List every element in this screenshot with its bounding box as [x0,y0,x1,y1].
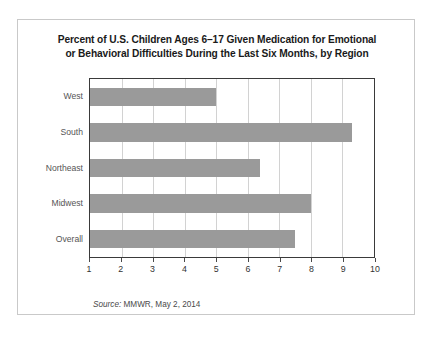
y-axis-label-overall: Overall [56,235,83,244]
x-tick-label-10: 10 [370,264,380,274]
y-axis-label-northeast: Northeast [46,164,83,173]
y-axis-label-midwest: Midwest [51,199,83,208]
figure-frame: Percent of U.S. Children Ages 6–17 Given… [17,19,415,315]
plot-area: WestSouthNortheastMidwestOverall [89,78,375,258]
source-note: Source: MMWR, May 2, 2014 [93,300,200,309]
bar-row: South [90,123,374,142]
chart-title-line-2: or Behavioral Difficulties During the La… [38,47,396,61]
bar-series: WestSouthNortheastMidwestOverall [90,79,374,257]
x-tick-label-4: 4 [182,264,187,274]
y-axis-label-west: West [64,92,83,101]
bar-row: West [90,88,374,107]
x-tick-mark [216,258,217,262]
source-value: MMWR, May 2, 2014 [124,300,201,309]
x-tick-mark [375,258,376,262]
x-tick-mark [343,258,344,262]
bar-west [90,88,216,107]
x-tick-mark [89,258,90,262]
x-tick-mark [153,258,154,262]
chart-title-line-1: Percent of U.S. Children Ages 6–17 Given… [38,33,396,47]
bar-row: Northeast [90,159,374,178]
x-tick-mark [311,258,312,262]
x-tick-label-3: 3 [150,264,155,274]
x-tick-mark [184,258,185,262]
x-tick-label-9: 9 [341,264,346,274]
x-tick-label-2: 2 [118,264,123,274]
source-label: Source: [93,300,121,309]
x-tick-mark [121,258,122,262]
x-axis: 12345678910 [89,258,375,280]
x-tick-label-1: 1 [87,264,92,274]
bar-south [90,123,352,142]
x-tick-label-5: 5 [214,264,219,274]
bar-row: Midwest [90,194,374,213]
bar-row: Overall [90,230,374,249]
x-tick-mark [280,258,281,262]
bar-northeast [90,159,260,178]
chart-title: Percent of U.S. Children Ages 6–17 Given… [38,33,396,61]
bar-overall [90,230,295,249]
plot-wrapper: WestSouthNortheastMidwestOverall [89,78,375,258]
x-tick-label-6: 6 [245,264,250,274]
x-tick-label-7: 7 [277,264,282,274]
x-tick-mark [248,258,249,262]
bar-midwest [90,194,311,213]
y-axis-label-south: South [61,128,83,137]
x-tick-label-8: 8 [309,264,314,274]
